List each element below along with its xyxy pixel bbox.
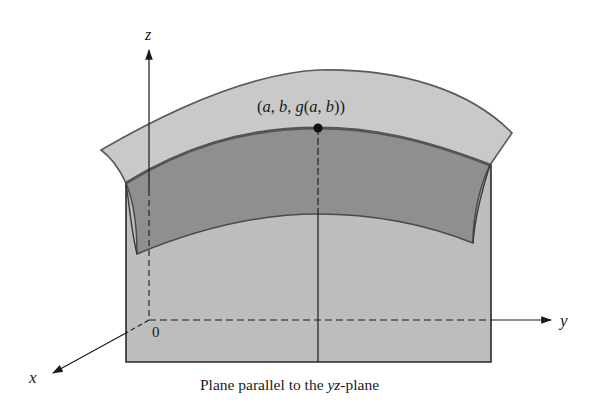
x-axis (53, 333, 126, 373)
point-label: (a, b, g(a, b)) (257, 97, 345, 116)
origin-label: 0 (152, 324, 160, 340)
x-axis-label: x (28, 368, 37, 387)
surface-plane-diagram: z y x 0 (a, b, g(a, b)) Plane parallel t… (0, 0, 598, 410)
y-axis-label: y (558, 311, 568, 330)
z-axis-label: z (144, 26, 152, 43)
caption: Plane parallel to the yz-plane (200, 376, 379, 393)
point-marker (314, 124, 323, 133)
